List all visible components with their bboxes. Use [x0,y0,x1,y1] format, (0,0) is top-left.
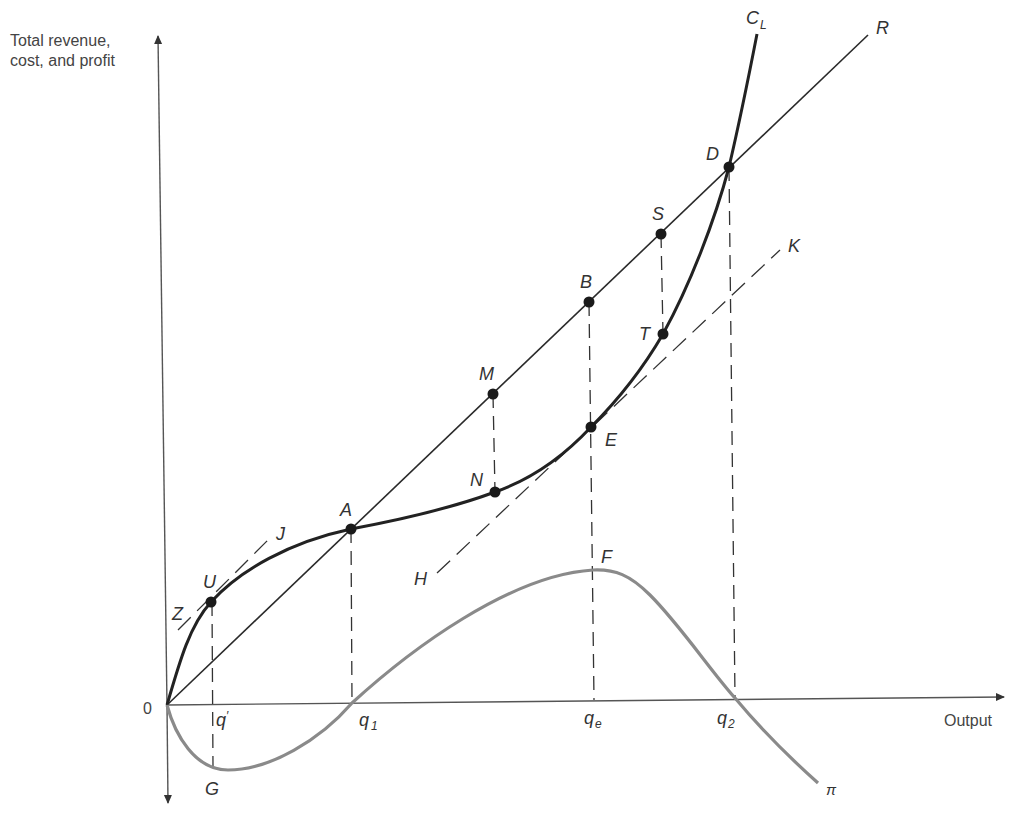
label-qe-main: q [584,708,594,728]
origin-label: 0 [143,700,152,717]
label-u: U [203,572,217,592]
label-q2-main: q [717,708,727,728]
label-j: J [275,524,286,544]
label-cl: CL [746,8,767,32]
profit-maximization-diagram: Total revenue, cost, and profit Output 0… [0,0,1028,813]
label-q-prime-mark: ′ [226,709,229,723]
label-m: M [479,364,494,384]
y-axis [158,36,167,705]
dash-q-prime [212,602,213,768]
label-q-prime-main: q [216,710,226,730]
x-axis-label: Output [944,712,993,729]
point-a [346,524,357,535]
point-n [490,487,501,498]
label-d: D [706,144,719,164]
label-q1-sub: 1 [371,719,378,733]
dash-s-t [661,234,663,334]
total-revenue-line [167,35,868,705]
point-t [658,329,669,340]
label-q2: q2 [717,708,735,731]
label-a: A [339,500,352,520]
label-b: B [580,272,592,292]
label-pi: π [826,781,837,798]
label-k: K [788,236,801,256]
point-b [584,297,595,308]
label-cl-sub: L [760,18,767,32]
label-q2-sub: 2 [727,717,735,731]
y-axis-negative [167,705,168,803]
tangent-line-hk [437,250,780,573]
dash-q2 [729,167,735,698]
label-q1: q1 [359,710,378,733]
profit-curve [167,570,818,783]
label-g: G [205,779,219,799]
dash-m-n [493,394,495,492]
label-qe-sub: e [595,717,602,731]
point-u [206,597,217,608]
label-t: T [639,324,652,344]
x-axis [167,697,1004,705]
label-s: S [652,204,664,224]
label-qe: qe [584,708,602,731]
point-d [724,162,735,173]
label-r: R [876,18,889,38]
y-axis-label-line1: Total revenue, [10,32,111,49]
label-f: F [601,547,613,567]
tangent-line-zj [178,540,268,630]
label-cl-main: C [746,8,760,28]
label-q-prime: q′ [216,709,229,730]
y-axis-label-line2: cost, and profit [10,52,116,69]
label-q1-main: q [359,710,369,730]
label-n: N [470,470,484,490]
point-m [488,389,499,400]
label-h: H [414,569,428,589]
label-z: Z [171,604,184,624]
point-e [586,422,597,433]
dash-qe [589,302,594,700]
point-s [656,229,667,240]
label-e: E [605,430,618,450]
dash-q1 [351,529,352,703]
cost-curve [167,34,757,705]
